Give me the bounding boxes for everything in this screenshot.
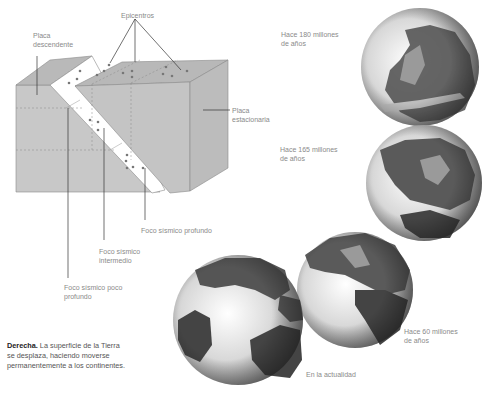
label-globe-60: Hace 60 millones de años (404, 327, 458, 345)
label-foco-intermedio: Foco sísmico intermedio (99, 247, 140, 265)
label-line: Hace 60 millones (404, 327, 458, 336)
label-line: profundo (64, 292, 122, 301)
label-placa-descendente: Placa descendente (33, 31, 73, 49)
label-line: Placa (232, 106, 270, 115)
label-globe-180: Hace 180 millones de años (281, 30, 339, 48)
label-line: Hace 180 millones (281, 30, 339, 39)
globe-present (173, 255, 303, 385)
label-foco-profundo: Foco sísmico profundo (141, 226, 212, 235)
label-line: estacionaria (232, 115, 270, 124)
label-line: de años (281, 39, 339, 48)
label-globe-present: En la actualidad (306, 370, 356, 379)
figure-caption: Derecha. La superficie de la Tierra se d… (7, 341, 127, 371)
label-line: de años (280, 154, 338, 163)
label-placa-estacionaria: Placa estacionaria (232, 106, 270, 124)
label-epicentros: Epicentros (121, 11, 154, 20)
globe-180-million (361, 8, 479, 126)
label-line: descendente (33, 40, 73, 49)
label-globe-165: Hace 165 millones de años (280, 145, 338, 163)
label-line: Foco sísmico poco (64, 283, 122, 292)
label-line: Hace 165 millones (280, 145, 338, 154)
label-line: intermedio (99, 256, 140, 265)
subduction-block-diagram (16, 19, 230, 278)
label-line: Foco sísmico (99, 247, 140, 256)
label-line: de años (404, 336, 458, 345)
caption-bold: Derecha. (7, 341, 38, 350)
stationary-plate-side (190, 60, 228, 191)
label-line: Placa (33, 31, 73, 40)
globe-60-million (297, 232, 413, 348)
label-foco-poco-profundo: Foco sísmico poco profundo (64, 283, 122, 301)
globe-165-million (366, 125, 482, 241)
